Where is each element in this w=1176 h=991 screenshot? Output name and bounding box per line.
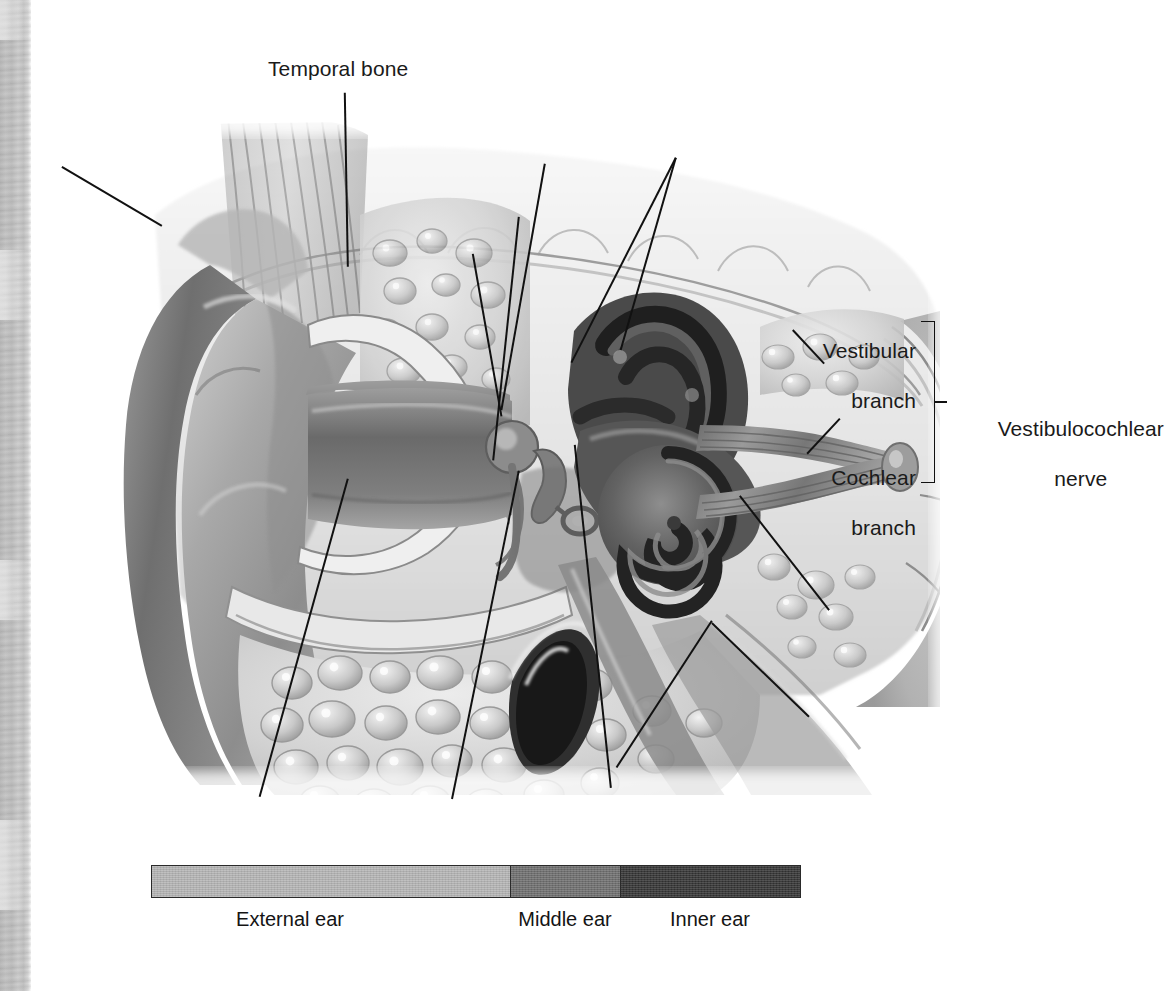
label-vestibular-branch: Vestibular branch [700,313,916,438]
legend-label-inner-ear: Inner ear [640,908,780,931]
label-cochlear-branch-line1: Cochlear [831,466,916,489]
vestibulocochlear-nerve-bracket [921,321,935,483]
label-vestibulocochlear-nerve: Vestibulocochlear nerve [950,391,1176,516]
label-vestibular-branch-line1: Vestibular [823,339,916,362]
vestibulocochlear-nerve-bracket-tick [934,401,947,403]
legend-swatch-external-ear [152,866,510,897]
legend-label-external-ear: External ear [190,908,390,931]
label-vestibulocochlear-nerve-line1: Vestibulocochlear [998,417,1164,440]
label-vestibulocochlear-nerve-line2: nerve [1054,467,1107,490]
figure-page: Temporal bone Vestibular branch Cochlear… [0,0,1176,991]
label-cochlear-branch: Cochlear branch [700,440,916,565]
label-temporal-bone: Temporal bone [268,56,408,81]
ear-anatomy-figure: Temporal bone Vestibular branch Cochlear… [0,0,1176,991]
legend-swatch-inner-ear [620,866,800,897]
legend-label-middle-ear: Middle ear [485,908,645,931]
label-cochlear-branch-line2: branch [851,516,916,539]
ear-regions-key-bar [151,865,801,898]
legend-swatch-middle-ear [510,866,620,897]
label-vestibular-branch-line2: branch [851,389,916,412]
